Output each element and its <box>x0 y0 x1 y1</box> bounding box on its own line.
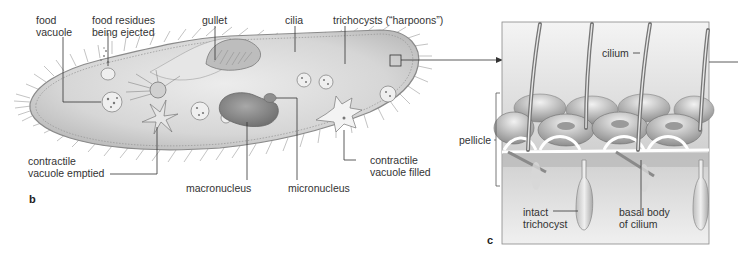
label-food-vacuole-line1: food <box>36 14 72 26</box>
label-food-residues-line2: being ejected <box>92 26 155 38</box>
label-food-residues-line1: food residues <box>92 14 155 26</box>
label-food-vacuole-line2: vacuole <box>36 26 72 38</box>
label-contractile-vacuole-emptied: contractile vacuole emptied <box>28 155 104 179</box>
label-cilium: cilium <box>602 47 629 59</box>
label-food-residues: food residues being ejected <box>92 14 155 38</box>
label-micronucleus: micronucleus <box>288 182 350 194</box>
label-macronucleus: macronucleus <box>186 182 251 194</box>
label-food-vacuole: food vacuole <box>36 14 72 38</box>
label-contractile-filled-line2: vacuole filled <box>370 166 431 178</box>
label-basal-line1: basal body <box>619 206 670 218</box>
label-intact-trichocyst: intact trichocyst <box>523 206 567 230</box>
panel-letter-c: c <box>487 234 493 246</box>
label-pellicle: pellicle <box>459 134 491 146</box>
label-trichocysts: trichocysts (“harpoons”) <box>333 14 443 26</box>
label-basal-body: basal body of cilium <box>619 206 670 230</box>
micronucleus <box>264 94 276 103</box>
label-intact-line2: trichocyst <box>523 218 567 230</box>
panel-letter-b: b <box>29 193 36 205</box>
label-contractile-emptied-line2: vacuole emptied <box>28 167 104 179</box>
label-gullet: gullet <box>202 14 227 26</box>
label-basal-line2: of cilium <box>619 218 670 230</box>
label-contractile-filled-line1: contractile <box>370 154 431 166</box>
label-cilia: cilia <box>285 14 303 26</box>
label-contractile-emptied-line1: contractile <box>28 155 104 167</box>
label-contractile-vacuole-filled: contractile vacuole filled <box>370 154 431 178</box>
label-intact-line1: intact <box>523 206 567 218</box>
